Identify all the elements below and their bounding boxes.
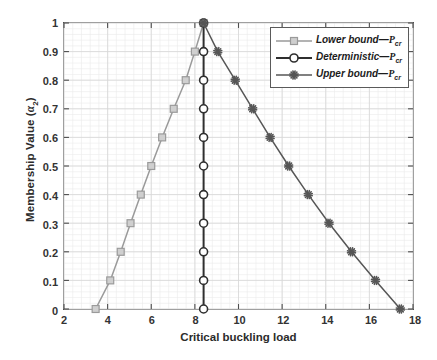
legend-swatch-circle bbox=[275, 51, 313, 65]
y-axis-label-text: Membership Value ( bbox=[24, 112, 36, 222]
y-tick-label: 0 bbox=[52, 305, 58, 317]
x-tick-label: 12 bbox=[277, 314, 289, 326]
plot-area: 00.10.20.30.40.50.60.70.80.9124681012141… bbox=[63, 22, 414, 310]
legend-label: Lower bound—Pcr bbox=[316, 34, 402, 47]
legend-item-deterministic[interactable]: Deterministic—Pcr bbox=[275, 49, 402, 66]
legend-label: Deterministic—Pcr bbox=[316, 51, 402, 64]
y-axis-label-close: ) bbox=[24, 97, 36, 101]
x-tick-label: 6 bbox=[149, 314, 155, 326]
series-deterministic bbox=[200, 19, 208, 313]
x-tick-label: 18 bbox=[409, 314, 421, 326]
y-tick-label: 0.1 bbox=[43, 276, 58, 288]
legend-swatch-star bbox=[275, 68, 313, 82]
y-tick-label: 0.5 bbox=[43, 161, 58, 173]
y-tick-label: 1 bbox=[52, 17, 58, 29]
x-tick-label: 10 bbox=[233, 314, 245, 326]
legend-label: Upper bound—Pcr bbox=[316, 68, 401, 81]
y-tick-label: 0.6 bbox=[43, 132, 58, 144]
y-tick-label: 0.8 bbox=[43, 75, 58, 87]
y-tick-label: 0.2 bbox=[43, 247, 58, 259]
legend-swatch-square bbox=[275, 34, 313, 48]
legend-item-lower-bound[interactable]: Lower bound—Pcr bbox=[275, 32, 402, 49]
x-tick-label: 4 bbox=[105, 314, 111, 326]
x-tick-label: 8 bbox=[193, 314, 199, 326]
legend[interactable]: Lower bound—PcrDeterministic—PcrUpper bo… bbox=[270, 27, 409, 88]
chart-figure: Membership Value (α2) 00.10.20.30.40.50.… bbox=[0, 0, 437, 360]
x-tick-label: 2 bbox=[61, 314, 67, 326]
y-tick-label: 0.9 bbox=[43, 46, 58, 58]
y-axis-label-symbol: α bbox=[24, 106, 36, 112]
y-tick-label: 0.4 bbox=[43, 190, 58, 202]
y-axis-label-subscript: 2 bbox=[31, 101, 40, 106]
y-tick-label: 0.3 bbox=[43, 219, 58, 231]
y-axis-label: Membership Value (α2) bbox=[24, 40, 39, 280]
series-lower-bound bbox=[92, 20, 207, 313]
x-axis-label: Critical buckling load bbox=[63, 331, 414, 343]
y-tick-label: 0.7 bbox=[43, 103, 58, 115]
x-tick-label: 14 bbox=[321, 314, 333, 326]
legend-item-upper-bound[interactable]: Upper bound—Pcr bbox=[275, 66, 402, 83]
x-tick-label: 16 bbox=[365, 314, 377, 326]
